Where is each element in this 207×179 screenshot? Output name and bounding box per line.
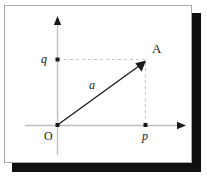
vector-label-a: a (89, 79, 95, 91)
vector-diagram-figure: q p A O a (0, 0, 207, 179)
x-coordinate-label-p: p (142, 130, 148, 142)
point-label-a-uppercase: A (152, 42, 161, 55)
origin-label-o: O (44, 130, 53, 142)
panel-background (5, 6, 192, 163)
p-marker-dot (144, 123, 148, 127)
q-marker-dot (56, 58, 60, 62)
diagram-canvas (0, 0, 207, 179)
origin-marker-dot (56, 123, 60, 127)
y-coordinate-label-q: q (41, 53, 47, 65)
